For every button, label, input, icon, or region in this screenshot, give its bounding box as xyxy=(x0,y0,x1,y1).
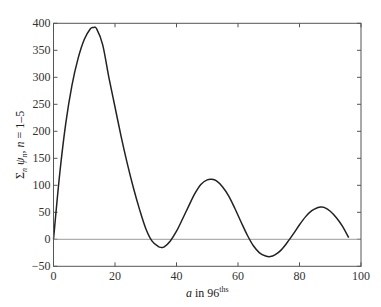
line-chart: −50050100150200250300350400 020406080100… xyxy=(0,0,381,307)
y-tick-label: −50 xyxy=(32,259,51,273)
x-tick-label: 0 xyxy=(51,269,57,283)
plot-frame xyxy=(54,23,362,266)
y-tick-label: 100 xyxy=(33,178,51,192)
y-tick-label: 50 xyxy=(39,205,51,219)
x-tick-label: 60 xyxy=(232,269,244,283)
y-tick-label: 0 xyxy=(45,232,51,246)
x-tick-label: 40 xyxy=(171,269,183,283)
y-axis-label: Σn ψn, n = 1–5 xyxy=(13,111,29,179)
x-tick-label: 80 xyxy=(294,269,306,283)
y-tick-label: 350 xyxy=(33,43,51,57)
x-tick-label: 20 xyxy=(109,269,121,283)
y-tick-label: 200 xyxy=(33,124,51,138)
x-tick-label: 100 xyxy=(352,269,370,283)
data-series-line xyxy=(54,27,349,257)
x-axis-label: a in 96ths xyxy=(186,285,229,300)
y-axis-ticks: −50050100150200250300350400 xyxy=(32,16,361,273)
y-tick-label: 400 xyxy=(33,16,51,30)
x-axis-ticks: 020406080100 xyxy=(51,23,371,283)
y-tick-label: 300 xyxy=(33,70,51,84)
y-tick-label: 150 xyxy=(33,151,51,165)
y-tick-label: 250 xyxy=(33,97,51,111)
